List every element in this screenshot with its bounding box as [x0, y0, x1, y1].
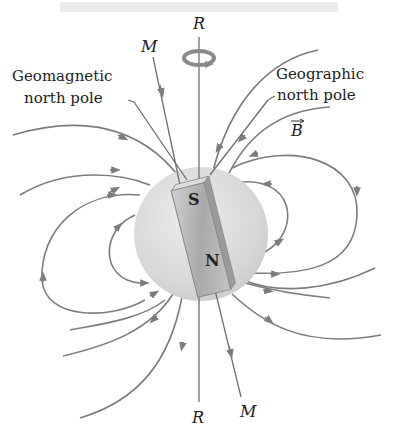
label-R-bottom: R [191, 408, 204, 427]
label-M-top: M [140, 37, 158, 56]
label-R-top: R [192, 14, 205, 33]
label-M-bottom: M [239, 402, 257, 421]
label-geomagnetic-1: Geomagnetic [12, 67, 112, 85]
magnetic-axis-bottom [215, 290, 241, 397]
label-geographic-1: Geographic [276, 65, 364, 83]
label-geographic-2: north pole [277, 86, 356, 104]
label-magnet-N: N [205, 251, 220, 270]
magnetic-axis-top [153, 57, 180, 185]
label-B-vector: B [290, 121, 303, 140]
earth-magnetic-field-diagram: R M Geomagnetic north pole Geographic no… [0, 0, 397, 435]
label-magnet-S: S [188, 190, 200, 209]
label-geomagnetic-2: north pole [24, 89, 103, 107]
